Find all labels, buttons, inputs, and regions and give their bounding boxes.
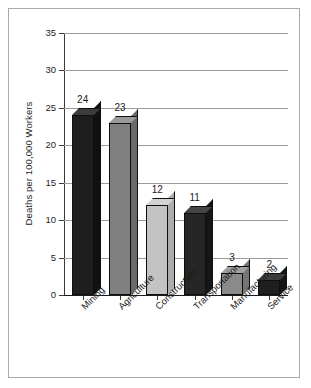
y-axis-tick-label: 15 — [28, 178, 56, 188]
chart-figure: Deaths per 100,000 Workers 0510152025303… — [0, 0, 311, 388]
bar-value-label: 23 — [105, 103, 135, 113]
bar-value-label: 12 — [142, 185, 172, 195]
bar-front-face — [109, 123, 131, 295]
y-axis-tick-label: 25 — [28, 103, 56, 113]
y-axis-tick-label: 20 — [28, 140, 56, 150]
y-axis-tick-label: 5 — [28, 253, 56, 263]
gridline — [64, 33, 288, 34]
bar-front-face — [72, 115, 94, 295]
plot-area — [64, 33, 288, 295]
bar-side-face — [168, 191, 175, 295]
bar — [109, 123, 131, 295]
gridline — [64, 70, 288, 71]
y-axis-tick-label: 30 — [28, 65, 56, 75]
bar-side-face — [131, 109, 138, 295]
bar-value-label: 24 — [68, 95, 98, 105]
y-axis-title: Deaths per 100,000 Workers — [23, 59, 34, 269]
y-axis-tick-label: 35 — [28, 28, 56, 38]
y-axis-tick-label: 10 — [28, 215, 56, 225]
bar-side-face — [94, 101, 101, 295]
y-axis-tick-label: 0 — [28, 290, 56, 300]
bar — [72, 115, 94, 295]
bar-side-face — [206, 199, 213, 295]
bar-value-label: 11 — [180, 193, 210, 203]
